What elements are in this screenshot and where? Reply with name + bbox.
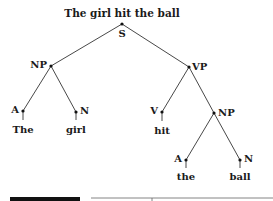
node-label-s: S [118,28,125,39]
node-label-vp: VP [191,61,208,72]
leaf-word-hit: hit [154,125,170,136]
edge-s-np [51,24,122,66]
edge-np-a [23,66,51,111]
leaf-word-ball: ball [229,171,250,182]
node-label-v: V [149,105,158,116]
edge-vp-np [189,67,214,113]
node-dot-a2 [184,158,187,161]
node-dot-a [21,109,24,112]
node-label-np2: NP [218,107,235,118]
node-label-np: NP [30,59,47,70]
leaf-word-girl: girl [66,124,86,135]
edge-vp-v [162,67,189,112]
sentence-title: The girl hit the ball [64,7,179,19]
node-label-a2: A [173,153,182,164]
node-label-n: N [80,105,89,116]
edge-np-n [51,66,76,112]
edge-np2-n [214,113,240,160]
node-label-n2: N [244,153,253,164]
parse-tree-diagram: The girl hit the ball S NP VP A N V NP A… [0,0,273,201]
node-dot-v [160,110,163,113]
node-dot-n2 [238,158,241,161]
bottom-black-bar [10,197,80,201]
node-label-a: A [10,104,19,115]
node-dot-np2 [212,111,215,114]
node-dot-np [49,64,52,67]
leaf-word-the: The [12,124,33,135]
node-dot-vp [187,65,190,68]
edge-s-vp [122,24,189,67]
tree-edges [23,24,240,168]
tree-node-dots [21,22,241,161]
edge-np2-a [186,113,214,160]
leaf-word-the2: the [177,171,195,182]
node-dot-n [74,110,77,113]
node-dot-s [120,22,123,25]
